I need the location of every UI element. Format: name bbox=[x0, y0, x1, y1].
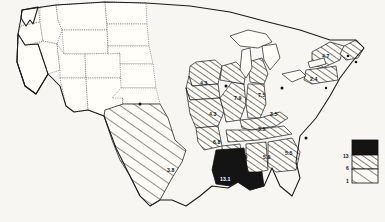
state-montana bbox=[56, 2, 107, 30]
value-label-MN: 4.3 bbox=[200, 80, 208, 86]
value-label-NY: 4.7 bbox=[322, 53, 330, 59]
value-label-AL: 5.0 bbox=[263, 154, 271, 160]
capital-dot bbox=[305, 137, 308, 140]
state-wyoming bbox=[62, 30, 108, 54]
value-label-TX: 3.8 bbox=[167, 167, 175, 173]
legend-label-high: 13 bbox=[343, 153, 349, 159]
legend-band-medium bbox=[352, 155, 378, 169]
legend-label-medium: 6 bbox=[346, 165, 349, 171]
value-label-LA: 13.1 bbox=[220, 176, 231, 182]
capital-dot bbox=[325, 87, 327, 89]
value-label-MS: 7.9 bbox=[240, 154, 248, 160]
legend-band-low bbox=[352, 169, 378, 183]
value-label-KY: 3.5 bbox=[270, 111, 278, 117]
capital-dot bbox=[355, 61, 358, 64]
value-label-GA: 5.5 bbox=[285, 150, 293, 156]
state-kansas bbox=[120, 64, 156, 88]
capital-dot bbox=[347, 55, 350, 58]
us-choropleth-map: 4.3 4.3 7.9 7.5 3.5 3.5 6.8 7.9 5.0 5.5 … bbox=[0, 0, 385, 222]
legend-band-high bbox=[352, 140, 378, 155]
value-label-IL: 7.9 bbox=[234, 95, 242, 101]
value-label-MO: 4.3 bbox=[209, 111, 217, 117]
capital-dot bbox=[225, 85, 228, 88]
capital-dot bbox=[281, 87, 284, 90]
state-georgia bbox=[268, 138, 300, 172]
value-label-PA: 2.4 bbox=[310, 76, 318, 82]
capital-dot bbox=[139, 103, 142, 106]
value-label-TN: 3.5 bbox=[258, 126, 266, 132]
value-label-AR: 6.8 bbox=[213, 139, 221, 145]
state-colorado bbox=[85, 53, 121, 78]
map-figure: 4.3 4.3 7.9 7.5 3.5 3.5 6.8 7.9 5.0 5.5 … bbox=[0, 0, 385, 222]
legend-label-low: 1 bbox=[346, 178, 349, 184]
value-label-IN: 7.5 bbox=[258, 92, 266, 98]
state-north-dakota bbox=[105, 2, 147, 24]
state-south-dakota bbox=[107, 24, 149, 46]
